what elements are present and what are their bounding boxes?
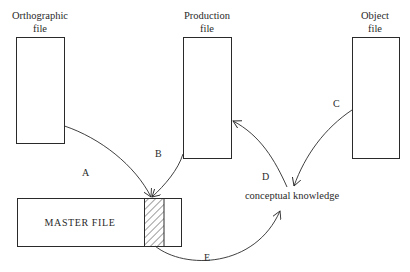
master-file-hatched-entry [145, 199, 165, 247]
arrow-b [152, 154, 183, 197]
orthographic-file-label-line1: Orthographic [12, 10, 68, 21]
master-file-node: MASTER FILE [18, 199, 182, 247]
arrow-d [233, 121, 287, 187]
orthographic-file-box [17, 38, 65, 144]
arrow-c-label: C [333, 98, 340, 109]
arrow-c [294, 110, 352, 186]
production-file-box [184, 38, 232, 159]
production-file-node: Production file [184, 10, 232, 159]
orthographic-file-label-line2: file [33, 23, 47, 34]
master-file-label: MASTER FILE [45, 217, 116, 228]
arrow-a-label: A [82, 167, 90, 178]
orthographic-file-node: Orthographic file [12, 10, 68, 144]
object-file-box [353, 38, 400, 159]
arrow-e [155, 211, 280, 261]
arrow-a [65, 126, 152, 197]
arrow-e-label: E [204, 252, 210, 263]
conceptual-knowledge-label: conceptual knowledge [245, 190, 340, 201]
object-file-node: Object file [353, 10, 400, 159]
production-file-label-line1: Production [184, 10, 231, 21]
production-file-label-line2: file [200, 23, 214, 34]
arrow-d-label: D [262, 171, 269, 182]
object-file-label-line2: file [368, 23, 382, 34]
arrow-b-label: B [155, 148, 162, 159]
diagram-canvas: Orthographic file Production file Object… [0, 0, 410, 272]
object-file-label-line1: Object [361, 10, 389, 21]
